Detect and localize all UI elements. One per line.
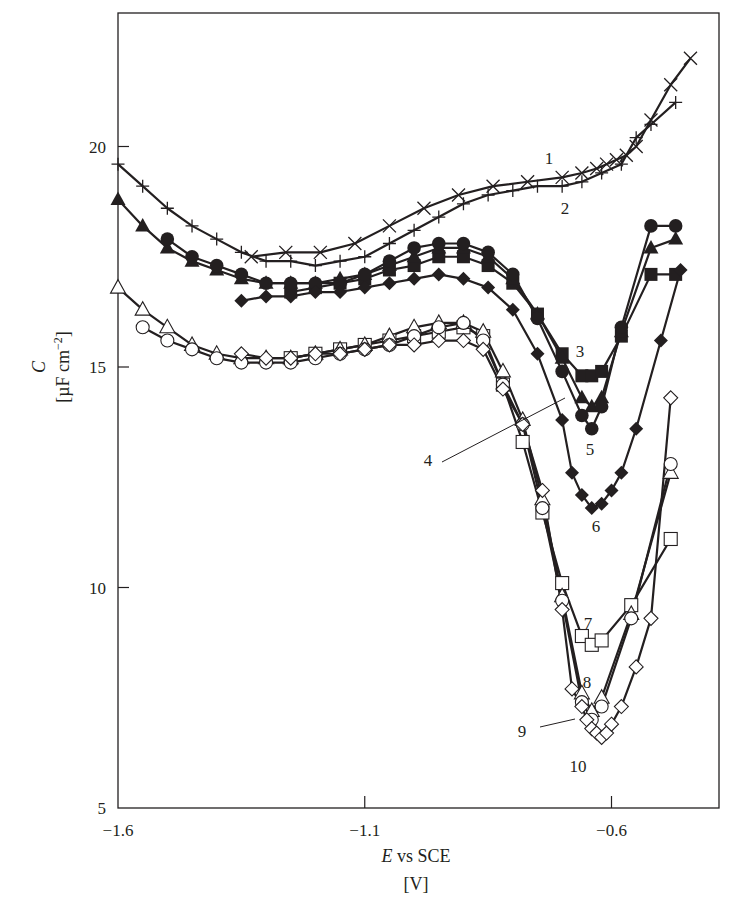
data-point [111, 280, 126, 294]
data-point [161, 334, 174, 347]
y-tick-label: 5 [98, 799, 107, 818]
data-point [644, 611, 658, 625]
data-point [284, 255, 297, 268]
data-point [457, 237, 471, 251]
data-point [407, 272, 421, 286]
y-tick-label: 20 [89, 138, 106, 157]
series-2-markers [112, 96, 683, 272]
data-point [408, 224, 421, 237]
data-point [625, 612, 638, 625]
data-point [186, 343, 199, 356]
y-tick-label: 10 [89, 579, 106, 598]
data-point [383, 254, 397, 268]
curve-label-3: 3 [576, 342, 585, 361]
data-point [210, 352, 223, 365]
data-point [358, 250, 371, 263]
data-point [536, 502, 549, 515]
data-point [530, 347, 544, 361]
data-point [235, 268, 249, 282]
data-point [664, 391, 678, 405]
data-point [284, 276, 298, 290]
data-point [161, 232, 175, 246]
data-point [664, 532, 677, 545]
data-point [383, 237, 396, 250]
series-1-markers [245, 52, 697, 263]
data-point [235, 246, 248, 259]
data-point [654, 334, 668, 348]
data-point [614, 466, 628, 480]
data-point [407, 241, 421, 255]
curve-label-6: 6 [592, 517, 601, 536]
y-axis-unit: [µF cm−2] [51, 331, 73, 403]
data-point [383, 219, 396, 232]
data-point [575, 409, 589, 423]
x-tick-label: −1.1 [349, 821, 380, 840]
data-point [160, 319, 175, 333]
series-layer [111, 52, 697, 745]
series-line [291, 257, 676, 376]
data-point [595, 634, 608, 647]
data-point [481, 246, 495, 260]
series-10-markers [234, 334, 677, 745]
curve-label-5: 5 [586, 440, 595, 459]
data-point [457, 316, 470, 329]
data-point [334, 255, 347, 268]
data-point [309, 259, 322, 272]
x-axis-title: E vs SCE [380, 846, 450, 866]
data-point [506, 268, 520, 282]
data-point [111, 191, 126, 205]
series-3 [291, 257, 676, 376]
data-point [417, 202, 430, 215]
data-point [644, 268, 657, 281]
data-point [531, 312, 545, 326]
data-point [432, 267, 446, 281]
data-point [506, 184, 519, 197]
x-tick-label: −0.6 [596, 821, 627, 840]
series-6-markers [234, 263, 687, 515]
curve-label-9: 9 [518, 722, 527, 741]
data-point [614, 700, 628, 714]
data-point [382, 276, 396, 290]
data-point [456, 272, 470, 286]
series-7-markers [284, 321, 677, 652]
curve-label-1: 1 [545, 149, 554, 168]
curve-label-10: 10 [570, 757, 587, 776]
series-line [118, 102, 676, 265]
data-point [482, 189, 495, 202]
x-axis-unit: [V] [404, 874, 429, 894]
data-point [684, 52, 697, 65]
capacitance-chart: −1.6−1.1−0.65101520 12345678910 E vs SCE… [0, 0, 733, 913]
curve-label-8: 8 [583, 673, 592, 692]
data-point [669, 219, 683, 233]
data-point [136, 321, 149, 334]
data-point [234, 294, 248, 308]
data-point [595, 700, 608, 713]
y-axis-title: C [29, 360, 49, 373]
data-point [260, 255, 273, 268]
y-tick-label: 15 [89, 358, 106, 377]
series-2 [118, 102, 676, 265]
data-point [456, 334, 470, 348]
curve-label-4: 4 [424, 451, 433, 470]
data-point [432, 237, 446, 251]
data-point [668, 231, 683, 245]
data-point [185, 250, 199, 264]
data-point [664, 458, 677, 471]
data-point [259, 289, 273, 303]
leader-line [442, 398, 565, 462]
data-point [585, 422, 599, 436]
curve-label-7: 7 [584, 614, 593, 633]
leader-line [540, 719, 575, 727]
data-point [432, 321, 445, 334]
data-point [615, 321, 629, 335]
data-point [595, 400, 609, 414]
data-point [432, 211, 445, 224]
data-point [629, 422, 643, 436]
data-point [574, 390, 589, 404]
series-6 [241, 270, 680, 508]
data-point [644, 219, 658, 233]
data-point [348, 237, 361, 250]
data-point [210, 233, 223, 246]
x-tick-label: −1.6 [103, 821, 134, 840]
data-point [629, 660, 643, 674]
